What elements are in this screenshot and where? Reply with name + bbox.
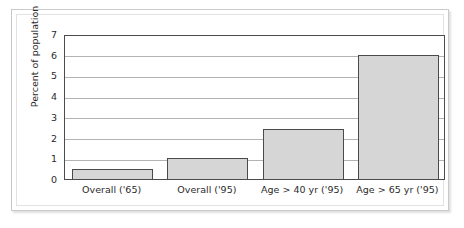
x-axis-label: Age > 65 yr ('95) (350, 185, 445, 195)
y-tick-label: 4 (51, 92, 57, 102)
figure-inner-border: Percent of population 01234567 Overall (… (16, 14, 444, 206)
bar-chart: Percent of population 01234567 Overall (… (17, 15, 443, 205)
bar (358, 55, 439, 179)
x-axis-label: Age > 40 yr ('95) (255, 185, 350, 195)
y-tick-label: 6 (51, 51, 57, 61)
y-tick-label: 1 (51, 155, 57, 165)
bar (263, 129, 344, 179)
y-tick-label: 5 (51, 72, 57, 82)
bar-series (65, 36, 444, 179)
plot-area (64, 35, 445, 180)
y-tick-label: 3 (51, 113, 57, 123)
y-tick-label: 0 (51, 175, 57, 185)
x-axis-label: Overall ('95) (159, 185, 254, 195)
x-axis-labels: Overall ('65)Overall ('95)Age > 40 yr ('… (64, 185, 445, 201)
x-axis-label: Overall ('65) (64, 185, 159, 195)
y-tick-label: 7 (51, 30, 57, 40)
bar (167, 158, 248, 179)
y-axis-ticks: 01234567 (17, 15, 64, 205)
y-tick-label: 2 (51, 134, 57, 144)
bar (72, 169, 153, 179)
figure-frame: Percent of population 01234567 Overall (… (11, 9, 449, 211)
